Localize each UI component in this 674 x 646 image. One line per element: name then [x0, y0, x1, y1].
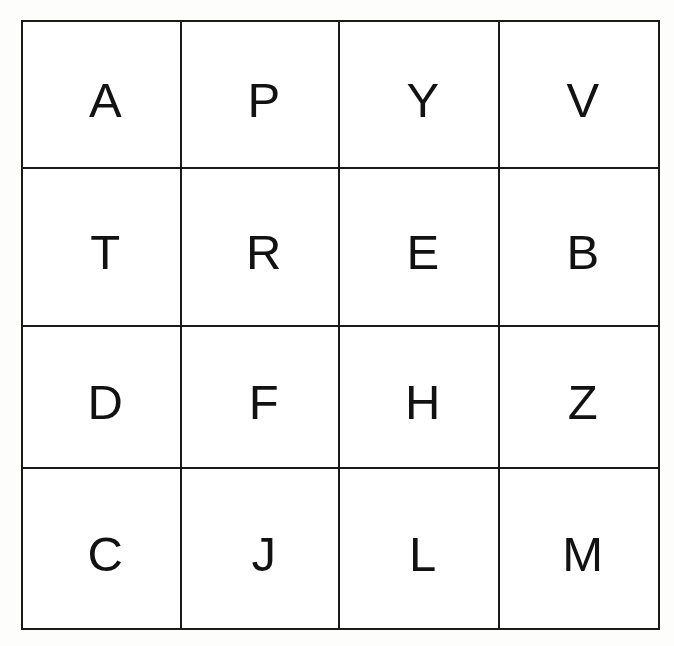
grid-cell-r1c1[interactable]: R	[182, 169, 340, 327]
cell-letter-r0c2: Y	[340, 76, 498, 125]
grid-cell-r3c3[interactable]: M	[500, 469, 658, 628]
cell-letter-r2c3: Z	[500, 378, 658, 427]
grid-cell-r3c0[interactable]: C	[23, 469, 182, 628]
cell-letter-r3c1: J	[182, 530, 338, 579]
cell-letter-r1c1: R	[182, 228, 338, 277]
grid-cell-r0c3[interactable]: V	[500, 22, 658, 169]
grid-cell-r2c1[interactable]: F	[182, 327, 340, 469]
cell-letter-r1c0: T	[23, 228, 180, 277]
cell-letter-r2c2: H	[340, 378, 498, 427]
cell-letter-r1c3: B	[500, 228, 658, 277]
grid-cell-r3c1[interactable]: J	[182, 469, 340, 628]
cell-letter-r3c2: L	[340, 530, 498, 579]
cell-letter-r0c0: A	[23, 76, 180, 125]
grid-cell-r1c0[interactable]: T	[23, 169, 182, 327]
letter-grid-page: A P Y V T R E B D F H	[0, 0, 674, 646]
cell-letter-r2c1: F	[182, 378, 338, 427]
grid-cell-r2c0[interactable]: D	[23, 327, 182, 469]
grid-cell-r1c2[interactable]: E	[340, 169, 500, 327]
cell-letter-r1c2: E	[340, 228, 498, 277]
letter-grid: A P Y V T R E B D F H	[21, 20, 660, 630]
grid-cell-r0c1[interactable]: P	[182, 22, 340, 169]
cell-letter-r3c3: M	[500, 530, 658, 579]
grid-cell-r3c2[interactable]: L	[340, 469, 500, 628]
cell-letter-r0c1: P	[182, 76, 338, 125]
grid-cell-r0c0[interactable]: A	[23, 22, 182, 169]
grid-cell-r2c3[interactable]: Z	[500, 327, 658, 469]
grid-cell-r2c2[interactable]: H	[340, 327, 500, 469]
cell-letter-r3c0: C	[23, 530, 180, 579]
grid-cell-r0c2[interactable]: Y	[340, 22, 500, 169]
cell-letter-r0c3: V	[500, 76, 658, 125]
grid-cell-r1c3[interactable]: B	[500, 169, 658, 327]
cell-letter-r2c0: D	[23, 378, 180, 427]
